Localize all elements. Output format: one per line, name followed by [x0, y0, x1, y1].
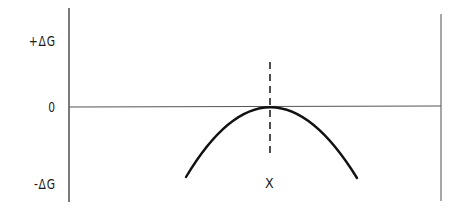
diagram-canvas: [0, 0, 459, 208]
energy-curve: [186, 107, 357, 178]
y-label-plus-delta-g: +ΔG: [29, 34, 56, 48]
x-marker-label: X: [265, 176, 275, 190]
y-label-minus-delta-g: -ΔG: [34, 177, 56, 191]
zero-baseline: [69, 106, 441, 107]
y-label-zero: 0: [48, 100, 56, 114]
